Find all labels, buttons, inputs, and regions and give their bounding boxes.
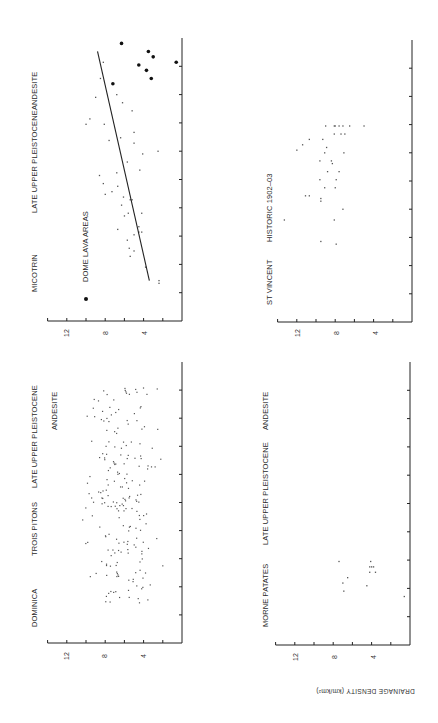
tick-8: 8 xyxy=(331,655,338,659)
label-age: LATE UPPER PLEISTOCENE xyxy=(261,442,270,545)
y-axis-title: DRAINAGE DENSITY (km/km²) xyxy=(316,688,415,695)
label-rock: ANDESITE xyxy=(261,392,270,430)
plot-morne-patates xyxy=(0,0,438,723)
label-morne-patates: MORNE PATATES xyxy=(261,564,270,627)
tick-12: 12 xyxy=(292,653,299,661)
tick-4: 4 xyxy=(370,655,377,659)
panel-morne-patates: MORNE PATATES LATE UPPER PLEISTOCENE AND… xyxy=(0,0,438,723)
